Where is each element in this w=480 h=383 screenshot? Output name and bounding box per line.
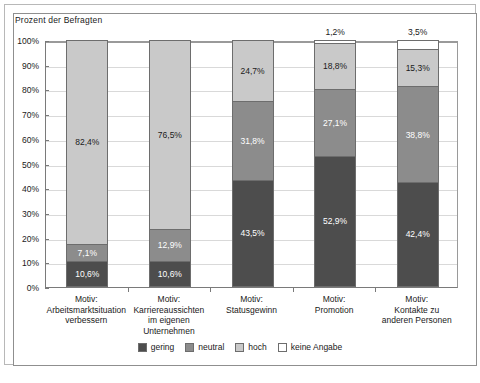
bar-segment[interactable]: 82,4%	[66, 40, 108, 244]
legend-label: hoch	[248, 342, 266, 352]
y-axis-tick-mark	[45, 66, 49, 67]
bar-segment-value-label: 52,9%	[323, 217, 347, 226]
y-axis-tick-mark	[45, 140, 49, 141]
y-axis-tick-mark	[45, 115, 49, 116]
bar-segment-value-label: 76,5%	[158, 131, 182, 140]
figure-caption	[6, 372, 474, 383]
bar-segment[interactable]: 10,6%	[66, 261, 108, 287]
legend-item[interactable]: hoch	[235, 342, 266, 352]
y-axis-tick-mark	[45, 214, 49, 215]
y-axis-tick-label: 90%	[22, 61, 39, 71]
bar-segment[interactable]: 42,4%	[397, 182, 439, 287]
legend-item[interactable]: neutral	[185, 342, 224, 352]
bar-segment-value-label: 27,1%	[323, 119, 347, 128]
plot-area: 82,4%7,1%10,6%76,5%12,9%10,6%24,7%31,8%4…	[45, 41, 458, 288]
legend-label: neutral	[198, 342, 224, 352]
bar-segment[interactable]: 18,8%	[314, 43, 356, 89]
figure: Prozent der Befragten 100%90%80%70%60%50…	[0, 0, 480, 383]
x-axis-tick-mark	[210, 288, 211, 292]
legend-item[interactable]: keine Angabe	[278, 342, 343, 352]
bar-segment[interactable]: 27,1%	[314, 89, 356, 156]
bar-segment[interactable]: 10,6%	[149, 261, 191, 287]
y-axis-tick-mark	[45, 90, 49, 91]
y-axis-tick-label: 10%	[22, 258, 39, 268]
x-axis-tick-mark	[375, 288, 376, 292]
bar-segment-value-label: 38,8%	[406, 131, 430, 140]
y-axis-tick-label: 30%	[22, 209, 39, 219]
legend-item[interactable]: gering	[138, 342, 175, 352]
chart-title: Prozent der Befragten	[15, 15, 102, 25]
bar-segment[interactable]: 7,1%	[66, 244, 108, 262]
bar-segment[interactable]: 38,8%	[397, 86, 439, 182]
bar-stack[interactable]: 1,2%18,8%27,1%52,9%	[314, 40, 356, 287]
bar-segment-value-label: 24,7%	[240, 67, 264, 76]
legend-swatch-icon	[278, 343, 287, 352]
y-axis-tick-mark	[45, 239, 49, 240]
bar-segment-value-label: 1,2%	[325, 27, 344, 37]
bar-segment-value-label: 43,5%	[240, 229, 264, 238]
x-axis-category-label-line: anderen Personen	[361, 315, 473, 326]
bar-segment[interactable]: 12,9%	[149, 229, 191, 261]
x-axis-category-label-line: Unternehmen	[113, 326, 225, 337]
legend-label: keine Angabe	[291, 342, 343, 352]
bar-stack[interactable]: 24,7%31,8%43,5%	[232, 40, 274, 287]
bar-stack[interactable]: 76,5%12,9%10,6%	[149, 40, 191, 287]
bar-segment-value-label: 31,8%	[240, 137, 264, 146]
y-axis-tick-label: 20%	[22, 234, 39, 244]
bar-stack[interactable]: 82,4%7,1%10,6%	[66, 40, 108, 287]
y-axis-tick-mark	[45, 288, 49, 289]
x-axis-category-label-line: Motiv:	[361, 294, 473, 305]
bar-segment[interactable]: 43,5%	[232, 180, 274, 287]
bar-segment-value-label: 42,4%	[406, 230, 430, 239]
bar-segment-value-label: 18,8%	[323, 62, 347, 71]
y-axis-tick-mark	[45, 165, 49, 166]
y-axis-tick-label: 50%	[22, 160, 39, 170]
bar-segment-value-label: 10,6%	[75, 270, 99, 279]
chart-legend: geringneutralhochkeine Angabe	[0, 342, 480, 352]
x-axis-tick-mark	[128, 288, 129, 292]
x-axis-category-label: Motiv:Kontakte zuanderen Personen	[361, 294, 473, 326]
bar-segment[interactable]: 24,7%	[232, 40, 274, 101]
legend-swatch-icon	[235, 343, 244, 352]
y-axis-tick-mark	[45, 189, 49, 190]
y-axis-tick-mark	[45, 41, 49, 42]
x-axis-category-label-line: Kontakte zu	[361, 305, 473, 316]
legend-label: gering	[151, 342, 175, 352]
legend-swatch-icon	[138, 343, 147, 352]
x-axis-category-label-line: im eigenen	[113, 315, 225, 326]
y-axis-tick-label: 60%	[22, 135, 39, 145]
bar-segment-value-label: 10,6%	[158, 270, 182, 279]
y-axis-tick-label: 0%	[27, 283, 39, 293]
bar-segment-value-label: 7,1%	[78, 249, 97, 258]
legend-swatch-icon	[185, 343, 194, 352]
bar-segment[interactable]: 76,5%	[149, 40, 191, 229]
bar-segment-value-label: 82,4%	[75, 138, 99, 147]
y-axis-tick-labels: 100%90%80%70%60%50%40%30%20%10%0%	[8, 41, 39, 288]
bar-segment[interactable]: 31,8%	[232, 101, 274, 180]
bar-segment-value-label: 15,3%	[406, 64, 430, 73]
bar-segment[interactable]: 52,9%	[314, 156, 356, 287]
bar-stack[interactable]: 3,5%15,3%38,8%42,4%	[397, 40, 439, 287]
y-axis-tick-label: 40%	[22, 184, 39, 194]
y-axis-tick-label: 70%	[22, 110, 39, 120]
y-axis-tick-mark	[45, 263, 49, 264]
x-axis-tick-mark	[293, 288, 294, 292]
bar-segment[interactable]: 15,3%	[397, 49, 439, 87]
bar-segment[interactable]: 3,5%	[397, 40, 439, 49]
bar-segment-value-label: 3,5%	[408, 27, 427, 37]
bar-segment-value-label: 12,9%	[158, 241, 182, 250]
y-axis-tick-label: 80%	[22, 85, 39, 95]
y-axis-tick-label: 100%	[17, 36, 39, 46]
